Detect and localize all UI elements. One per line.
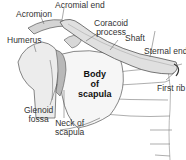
label-neck-line2: scapula [55, 128, 84, 137]
label-acromion: Acromion [16, 10, 52, 19]
label-glenoid-line2: fossa [24, 115, 53, 124]
label-coracoid-process: Coracoid process [94, 19, 128, 37]
label-body-line1: Body [78, 69, 112, 79]
label-neck-of-scapula: Neck of scapula [55, 119, 84, 137]
label-humerus: Humerus [7, 36, 41, 45]
label-body-of-scapula: Body of scapula [78, 69, 112, 99]
label-first-rib: First rib [157, 84, 185, 93]
label-coracoid-line2: process [94, 28, 128, 37]
label-shaft: Shaft [125, 34, 145, 43]
label-sternal-end: Sternal end [144, 47, 186, 56]
label-glenoid-fossa: Glenoid fossa [24, 106, 53, 124]
label-acromial-end: Acromial end [55, 1, 105, 10]
label-body-line2: of [78, 79, 112, 89]
label-body-line3: scapula [78, 89, 112, 99]
